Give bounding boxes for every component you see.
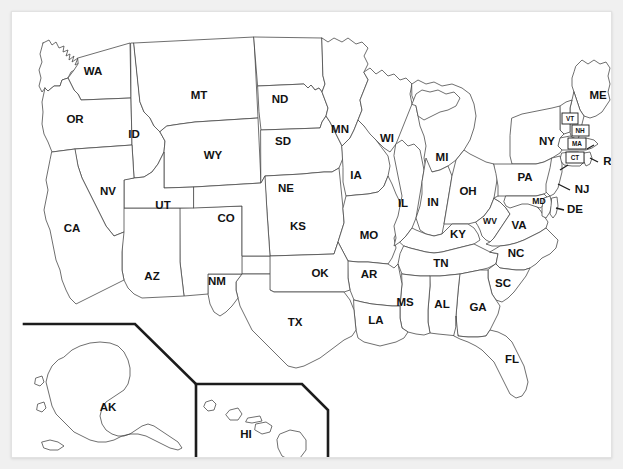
state-label-ar: AR: [361, 268, 378, 280]
state-label-al: AL: [434, 298, 449, 310]
state-shape-ak-isle2[interactable]: [37, 402, 46, 412]
state-label-ia: IA: [350, 169, 362, 181]
state-shape-ks[interactable]: [265, 168, 344, 256]
state-label-id: ID: [128, 128, 140, 140]
state-shape-nd[interactable]: [254, 37, 325, 92]
state-label-nm: NM: [208, 275, 226, 287]
state-label-va: VA: [511, 219, 526, 231]
state-label-nc: NC: [508, 247, 525, 259]
state-label-ma: MA: [572, 140, 582, 147]
state-shape-ny[interactable]: [510, 106, 564, 164]
state-label-tn: TN: [433, 257, 448, 269]
state-label-ut: UT: [155, 199, 170, 211]
state-label-or: OR: [66, 113, 84, 125]
state-label-ca: CA: [64, 222, 81, 234]
state-label-hi: HI: [240, 428, 252, 440]
state-label-co: CO: [217, 212, 234, 224]
state-label-ct: CT: [571, 154, 580, 161]
state-shape-hi-oahu[interactable]: [226, 408, 242, 420]
nj-leader-line: [558, 184, 570, 190]
state-shape-mt[interactable]: [134, 37, 258, 132]
state-shape-ak-isle1[interactable]: [35, 376, 44, 386]
state-label-md: MD: [532, 196, 545, 206]
state-label-ri: RI: [603, 155, 612, 167]
state-label-ny: NY: [539, 135, 555, 147]
state-label-nh: NH: [575, 127, 585, 134]
state-shape-hi-bigisland[interactable]: [277, 430, 306, 458]
state-label-pa: PA: [517, 171, 532, 183]
state-label-fl: FL: [505, 353, 519, 365]
state-label-oh: OH: [459, 185, 476, 197]
state-shape-ak-aleutians[interactable]: [42, 440, 64, 450]
state-shape-hi-kauai[interactable]: [204, 400, 216, 411]
state-label-ga: GA: [469, 301, 486, 313]
state-shape-ok-pan[interactable]: [242, 256, 270, 274]
state-label-mt: MT: [191, 89, 208, 101]
state-shape-az[interactable]: [122, 208, 184, 298]
state-label-in: IN: [427, 196, 439, 208]
state-shape-ak[interactable]: [46, 342, 182, 450]
state-label-wa: WA: [84, 65, 103, 77]
state-label-ky: KY: [450, 228, 466, 240]
state-label-tx: TX: [288, 316, 303, 328]
state-label-az: AZ: [144, 270, 159, 282]
state-label-la: LA: [368, 314, 383, 326]
state-label-sd: SD: [275, 135, 291, 147]
state-label-ak: AK: [100, 401, 117, 413]
state-label-me: ME: [589, 89, 607, 101]
state-label-mn: MN: [331, 123, 349, 135]
map-card: WAORIDMTNDSDNEKSMNIAMOWIILMIINOHKYWVVATN…: [11, 11, 612, 458]
state-label-nj: NJ: [575, 183, 590, 195]
state-label-vt: VT: [566, 115, 574, 122]
state-label-mo: MO: [360, 229, 379, 241]
state-label-nv: NV: [100, 185, 116, 197]
state-label-nd: ND: [272, 93, 289, 105]
map-page: WAORIDMTNDSDNEKSMNIAMOWIILMIINOHKYWVVATN…: [0, 0, 623, 469]
state-shape-hi-maui[interactable]: [255, 422, 272, 434]
state-label-wv: WV: [483, 216, 497, 226]
state-label-ks: KS: [290, 220, 306, 232]
state-label-mi: MI: [436, 151, 449, 163]
us-states-map[interactable]: WAORIDMTNDSDNEKSMNIAMOWIILMIINOHKYWVVATN…: [12, 12, 612, 458]
state-label-ok: OK: [311, 267, 329, 279]
state-label-wi: WI: [380, 132, 394, 144]
state-label-de: DE: [567, 203, 583, 215]
state-label-ne: NE: [278, 182, 294, 194]
state-shape-hi-molokai[interactable]: [246, 416, 262, 423]
state-label-ms: MS: [396, 296, 414, 308]
state-label-wy: WY: [204, 149, 223, 161]
state-shape-sd[interactable]: [258, 84, 328, 130]
state-shape-il[interactable]: [394, 140, 424, 246]
state-label-il: IL: [398, 197, 408, 209]
state-label-sc: SC: [495, 277, 511, 289]
